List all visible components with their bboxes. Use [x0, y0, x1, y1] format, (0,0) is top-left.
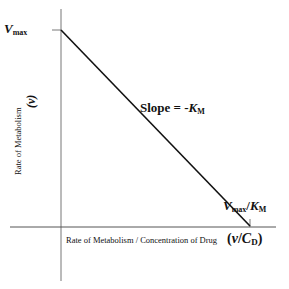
x-axis-label: Rate of Metabolism / Concentration of Dr…	[66, 236, 217, 245]
y-axis-label: Rate of Metabolism	[13, 107, 23, 175]
data-line	[61, 30, 250, 226]
slope-label: Slope = -KM	[140, 101, 205, 116]
x-intercept-label: Vmax/KM	[223, 199, 266, 214]
x-axis-symbol: (v/CD)	[227, 232, 262, 247]
vmax-label: Vmax	[4, 22, 27, 37]
y-axis-symbol: (v)	[24, 95, 39, 108]
